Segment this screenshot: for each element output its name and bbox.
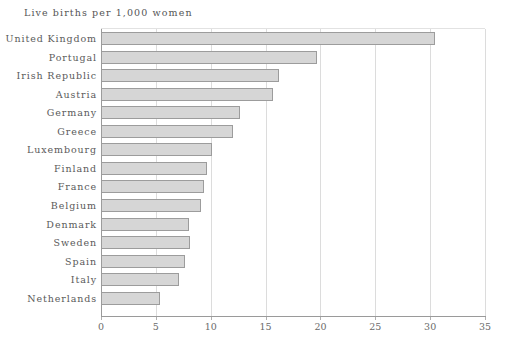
x-tick-label-30: 30 [424,321,436,332]
category-label: Greece [57,126,97,137]
tick-mark-0 [101,317,102,320]
bar[interactable] [101,106,240,119]
bar[interactable] [101,255,185,268]
x-tick-label-25: 25 [369,321,381,332]
bar[interactable] [101,143,212,156]
x-tick-label-5: 5 [153,321,159,332]
bar-row[interactable] [101,106,485,119]
category-label: Belgium [51,200,97,211]
category-label: Finland [54,163,97,174]
bar[interactable] [101,69,279,82]
chart-title: Live births per 1,000 women [24,7,193,18]
bar[interactable] [101,273,179,286]
x-tick-label-0: 0 [98,321,104,332]
category-label: Netherlands [27,293,97,304]
bar-row[interactable] [101,292,485,305]
plot-area [101,29,485,316]
bar-row[interactable] [101,199,485,212]
bar[interactable] [101,292,160,305]
bar-row[interactable] [101,255,485,268]
bar-row[interactable] [101,32,485,45]
category-label: Spain [65,256,97,267]
category-label: Austria [56,89,97,100]
bar[interactable] [101,88,273,101]
bar-row[interactable] [101,88,485,101]
category-label: Italy [71,274,97,285]
x-tick-label-10: 10 [205,321,217,332]
gridline-35 [485,29,486,316]
category-label: France [58,181,97,192]
category-label: Germany [47,107,97,118]
chart-figure: Live births per 1,000 women 051015202530… [0,0,509,352]
tick-mark-20 [320,317,321,320]
bar-row[interactable] [101,218,485,231]
bar-row[interactable] [101,273,485,286]
tick-mark-30 [430,317,431,320]
tick-mark-35 [485,317,486,320]
bar[interactable] [101,236,190,249]
tick-mark-25 [375,317,376,320]
bar-row[interactable] [101,51,485,64]
x-axis-line [101,316,486,317]
bar-row[interactable] [101,143,485,156]
bar[interactable] [101,51,317,64]
bar[interactable] [101,32,435,45]
category-label: United Kingdom [6,33,97,44]
tick-mark-15 [266,317,267,320]
tick-mark-10 [211,317,212,320]
bar[interactable] [101,125,233,138]
category-label: Portugal [49,52,97,63]
x-tick-label-35: 35 [479,321,491,332]
category-label: Irish Republic [17,70,97,81]
bar[interactable] [101,218,189,231]
category-label: Sweden [54,237,97,248]
bar[interactable] [101,162,207,175]
category-label: Luxembourg [27,144,97,155]
bar-row[interactable] [101,125,485,138]
bar-row[interactable] [101,162,485,175]
bar-row[interactable] [101,69,485,82]
bar[interactable] [101,180,204,193]
x-tick-label-15: 15 [260,321,272,332]
bar-row[interactable] [101,180,485,193]
bar[interactable] [101,199,201,212]
tick-mark-5 [156,317,157,320]
x-tick-label-20: 20 [314,321,326,332]
bar-row[interactable] [101,236,485,249]
category-label: Denmark [46,219,97,230]
